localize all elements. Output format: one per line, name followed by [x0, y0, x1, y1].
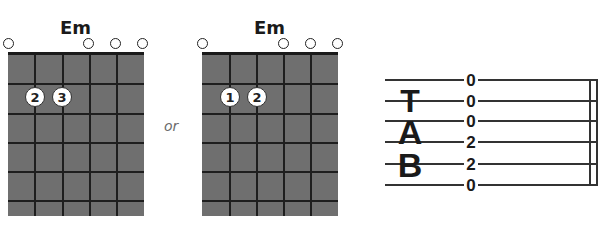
tab-letter-b: B	[395, 148, 425, 182]
string-line	[116, 55, 118, 216]
fret-line	[8, 142, 144, 144]
string-line	[89, 55, 91, 216]
open-string-icon	[83, 38, 94, 49]
open-string-icon	[278, 38, 289, 49]
open-string-icon	[332, 38, 343, 49]
open-string-icon	[3, 38, 14, 49]
separator-or: or	[164, 118, 178, 134]
tab-fret-number: 2	[464, 134, 478, 151]
open-string-icon	[197, 38, 208, 49]
fret-line	[202, 142, 338, 144]
fret-line	[202, 113, 338, 115]
fret-line	[202, 200, 338, 202]
chord-name: Em	[60, 19, 91, 37]
fretboard-grid	[8, 52, 144, 216]
string-line	[34, 55, 36, 216]
finger-marker: 2	[25, 87, 45, 107]
tab-fret-number: 0	[464, 113, 478, 130]
fret-line	[202, 171, 338, 173]
finger-marker: 2	[247, 87, 267, 107]
string-line	[256, 55, 258, 216]
finger-marker: 3	[52, 87, 72, 107]
fret-line	[202, 83, 338, 85]
tab-fret-number: 0	[464, 93, 478, 110]
end-barline	[589, 79, 591, 186]
open-string-icon	[137, 38, 148, 49]
fret-line	[8, 200, 144, 202]
chord-name: Em	[254, 19, 285, 37]
fret-line	[8, 83, 144, 85]
staff-line	[385, 184, 597, 186]
tab-fret-number: 0	[464, 177, 478, 194]
fret-line	[8, 171, 144, 173]
string-line	[283, 55, 285, 216]
string-line	[310, 55, 312, 216]
string-line	[62, 55, 64, 216]
string-line	[229, 55, 231, 216]
tab-fret-number: 0	[464, 72, 478, 89]
finger-marker: 1	[220, 87, 240, 107]
open-string-icon	[305, 38, 316, 49]
staff-line	[385, 79, 597, 81]
end-barline	[596, 79, 598, 186]
fret-line	[8, 113, 144, 115]
fretboard-grid	[202, 52, 338, 216]
open-string-icon	[110, 38, 121, 49]
tab-letter-a: A	[395, 115, 425, 149]
tab-fret-number: 2	[464, 156, 478, 173]
